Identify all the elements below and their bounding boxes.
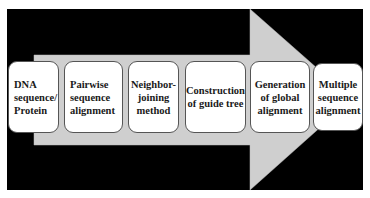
step-label: Multiple sequence alignment — [316, 78, 361, 117]
step-label: Construction of guide tree — [186, 84, 245, 110]
step-label: Generation of global alignment — [255, 78, 306, 117]
step-pairwise-sequence-alignment: Pairwise sequence alignment — [64, 61, 123, 133]
step-label: DNA sequence/ Protein — [9, 78, 58, 117]
step-multiple-sequence-alignment: Multiple sequence alignment — [313, 63, 363, 131]
step-label: Neighbor- joining method — [131, 78, 176, 117]
step-construction-of-guide-tree: Construction of guide tree — [185, 61, 246, 133]
step-neighbor-joining-method: Neighbor- joining method — [128, 61, 179, 133]
step-dna-sequence-protein: DNA sequence/ Protein — [8, 61, 59, 133]
step-label: Pairwise sequence alignment — [65, 78, 122, 117]
step-generation-of-global-alignment: Generation of global alignment — [250, 61, 310, 133]
